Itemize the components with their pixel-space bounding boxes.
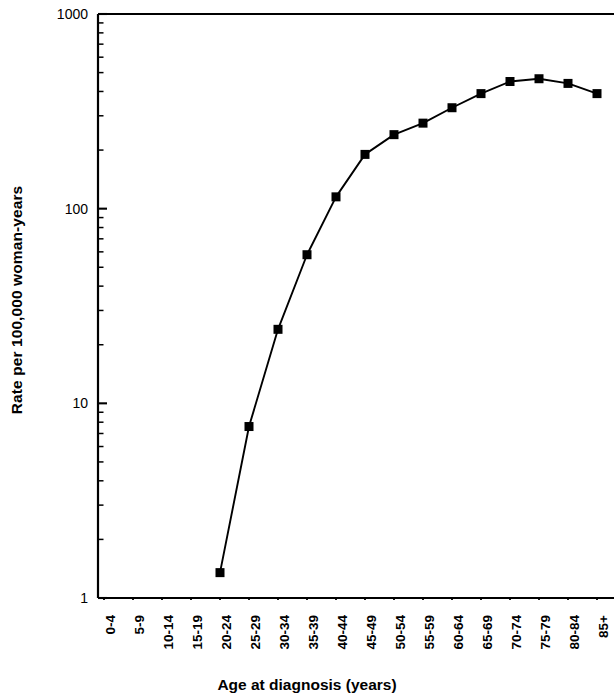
x-tick-label: 15-19 — [189, 615, 207, 685]
x-tick-label: 55-59 — [421, 615, 439, 685]
axis-frame — [98, 14, 614, 598]
x-tick-label: 50-54 — [392, 615, 410, 685]
x-tick-label: 5-9 — [131, 615, 149, 685]
data-marker — [448, 103, 457, 112]
y-axis-title: Rate per 100,000 woman-years — [0, 0, 34, 600]
data-marker — [361, 150, 370, 159]
x-tick-label: 85+ — [595, 615, 613, 685]
data-marker — [506, 77, 515, 86]
x-tick-label: 45-49 — [363, 615, 381, 685]
x-tick-label: 60-64 — [450, 615, 468, 685]
x-axis-title: Age at diagnosis (years) — [0, 676, 614, 694]
x-tick-label: 70-74 — [508, 615, 526, 685]
x-axis-title-text: Age at diagnosis (years) — [217, 676, 396, 693]
data-marker — [593, 89, 602, 98]
y-tick-label: 100 — [40, 202, 88, 216]
data-marker — [216, 568, 225, 577]
data-marker — [332, 192, 341, 201]
y-tick-label: 10 — [40, 396, 88, 410]
x-tick-label: 65-69 — [479, 615, 497, 685]
x-tick-label: 25-29 — [247, 615, 265, 685]
y-tick-label: 1000 — [40, 7, 88, 21]
data-markers — [216, 74, 602, 577]
x-tick-label: 0-4 — [102, 615, 120, 685]
data-marker — [477, 89, 486, 98]
x-tick-label: 30-34 — [276, 615, 294, 685]
data-marker — [245, 422, 254, 431]
chart-figure: Rate per 100,000 woman-years 1000100101 … — [0, 0, 614, 700]
data-marker — [390, 130, 399, 139]
data-marker — [564, 79, 573, 88]
data-marker — [274, 325, 283, 334]
x-tick-label: 80-84 — [566, 615, 584, 685]
x-tick-label: 75-79 — [537, 615, 555, 685]
y-axis-tick-labels: 1000100101 — [36, 0, 88, 700]
x-tick-label: 35-39 — [305, 615, 323, 685]
data-marker — [419, 119, 428, 128]
x-tick-label: 10-14 — [160, 615, 178, 685]
x-axis-tick-labels: 0-45-910-1415-1920-2425-2930-3435-3940-4… — [92, 600, 614, 670]
x-tick-label: 20-24 — [218, 615, 236, 685]
y-tick-label: 1 — [40, 591, 88, 605]
data-marker — [535, 74, 544, 83]
x-tick-label: 40-44 — [334, 615, 352, 685]
y-axis-ticks — [98, 14, 107, 598]
data-marker — [303, 250, 312, 259]
plot-svg — [92, 10, 614, 600]
plot-area — [92, 10, 614, 600]
y-axis-title-text: Rate per 100,000 woman-years — [8, 186, 26, 415]
